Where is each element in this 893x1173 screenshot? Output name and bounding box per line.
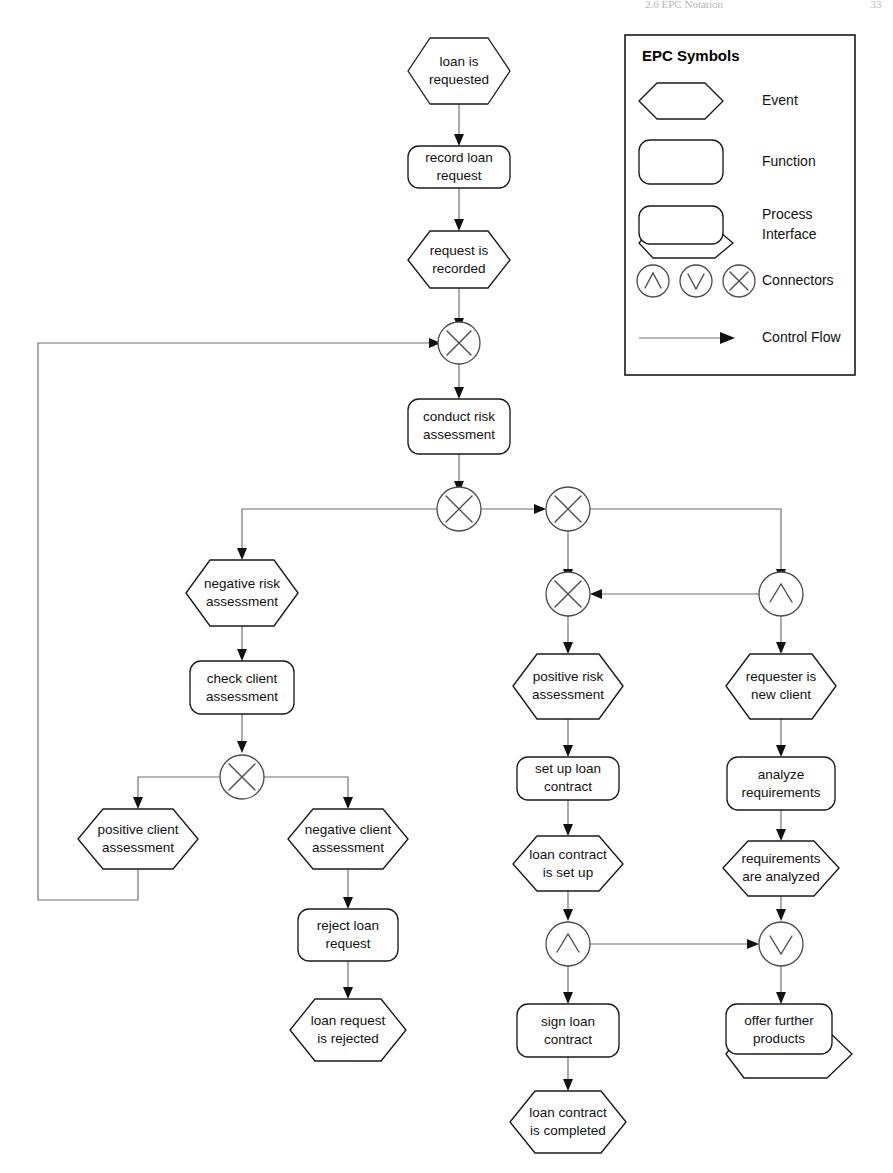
function-rect-shape [517, 1004, 619, 1057]
flow-c6-e5 [264, 777, 348, 800]
arrowhead-f4 [343, 897, 353, 909]
arrowhead-e3 [237, 548, 247, 560]
connector-xor-split-risk[interactable] [437, 487, 481, 531]
function-reject-loan-request[interactable]: reject loan request [298, 909, 398, 961]
arrowhead-c6-top [237, 741, 247, 753]
node-label-line2: is rejected [317, 1031, 379, 1046]
event-hexagon-icon [639, 83, 723, 119]
connector-and-split-new-client[interactable] [759, 572, 803, 616]
legend-label-process-interface-line2: Interface [762, 226, 817, 242]
arrowhead-e5 [343, 797, 353, 809]
node-label-line1: set up loan [535, 761, 601, 776]
node-label-line1: negative client [305, 822, 392, 837]
function-rect-icon [639, 140, 723, 184]
arrowhead-f3 [237, 649, 247, 661]
event-request-is-recorded[interactable]: request is recorded [408, 231, 510, 288]
page-header: 2.6 EPC Notation 33 [645, 0, 882, 10]
legend-label-event: Event [762, 92, 798, 108]
arrowhead-e6 [343, 987, 353, 999]
legend-panel: EPC Symbols Event Function Process Inter… [625, 35, 855, 375]
legend-label-control-flow: Control Flow [762, 329, 841, 345]
node-label-line2: products [753, 1031, 805, 1046]
event-loan-is-requested[interactable]: loan is requested [408, 38, 510, 104]
arrowhead-f2 [454, 387, 464, 399]
page-number: 33 [871, 0, 883, 10]
node-label-line1: loan is [439, 54, 478, 69]
event-hexagon-shape [513, 836, 623, 891]
legend-title: EPC Symbols [642, 47, 740, 64]
flow-c2-e3 [242, 509, 437, 551]
node-label-line2: assessment [312, 840, 384, 855]
arrowhead-c8-left [747, 939, 759, 949]
node-label-line2: requirements [742, 785, 821, 800]
connector-circle-shape [759, 922, 803, 966]
function-record-loan-request[interactable]: record loan request [408, 146, 510, 188]
arrowhead-e9 [563, 1079, 573, 1091]
event-loan-request-is-rejected[interactable]: loan request is rejected [290, 999, 406, 1061]
connector-circle-shape [546, 922, 590, 966]
node-label-line2: assessment [206, 594, 278, 609]
arrowhead-c4-right [590, 589, 602, 599]
function-conduct-risk-assessment[interactable]: conduct risk assessment [408, 399, 510, 454]
node-label-line2: is set up [543, 865, 593, 880]
event-positive-risk-assessment[interactable]: positive risk assessment [513, 654, 623, 719]
connector-circle-icon-and [637, 265, 669, 297]
arrowhead-e7 [563, 642, 573, 654]
node-label-line1: analyze [758, 767, 805, 782]
connector-xor-split-client-assessment[interactable] [220, 755, 264, 799]
node-label-line1: check client [207, 671, 278, 686]
arrowhead-f6 [563, 992, 573, 1004]
legend-label-process-interface-line1: Process [762, 206, 813, 222]
node-label-line2: request [325, 936, 370, 951]
connector-xor-join-rework[interactable] [438, 322, 480, 364]
epc-diagram-canvas: 2.6 EPC Notation 33 [0, 0, 893, 1173]
event-loan-contract-is-set-up[interactable]: loan contract is set up [513, 836, 623, 891]
function-rect-shape [190, 661, 294, 714]
function-analyze-requirements[interactable]: analyze requirements [727, 757, 835, 810]
arrowhead-f7 [776, 745, 786, 757]
arrowhead-c7-top [563, 909, 573, 921]
connector-xor-split-client-check[interactable] [546, 487, 590, 531]
event-loan-contract-is-completed[interactable]: loan contract is completed [510, 1091, 626, 1153]
event-negative-client-assessment[interactable]: negative client assessment [288, 809, 408, 869]
function-check-client-assessment[interactable]: check client assessment [190, 661, 294, 714]
node-label-line1: reject loan [317, 918, 379, 933]
event-hexagon-shape [408, 231, 510, 288]
function-sign-loan-contract[interactable]: sign loan contract [517, 1004, 619, 1057]
arrowhead-f5 [563, 745, 573, 757]
node-label-line1: negative risk [204, 576, 280, 591]
arrowhead-p1 [776, 992, 786, 1004]
arrowhead-c3-left [534, 504, 546, 514]
node-label-line1: record loan [425, 150, 493, 165]
process-interface-offer-further-products[interactable]: offer further products [726, 1004, 852, 1078]
connector-and-split-sign-contract[interactable] [546, 922, 590, 966]
function-set-up-loan-contract[interactable]: set up loan contract [517, 757, 619, 800]
node-label-line1: conduct risk [423, 409, 495, 424]
node-label-line2: recorded [432, 261, 485, 276]
event-requirements-are-analyzed[interactable]: requirements are analyzed [723, 841, 839, 896]
flow-c3-c5 [590, 509, 781, 572]
connector-or-join-offer-products[interactable] [759, 922, 803, 966]
node-label-line2: contract [544, 779, 592, 794]
connector-xor-join-positive-risk[interactable] [546, 572, 590, 616]
process-interface-front-rect [726, 1004, 832, 1054]
node-label-line1: request is [430, 243, 489, 258]
legend-label-function: Function [762, 153, 816, 169]
page-header-title: 2.6 EPC Notation [645, 0, 723, 10]
node-label-line2: requested [429, 72, 489, 87]
node-label-line1: positive risk [533, 669, 604, 684]
arrowhead-e2 [454, 219, 464, 231]
event-negative-risk-assessment[interactable]: negative risk assessment [186, 560, 298, 626]
node-label-line2: assessment [532, 687, 604, 702]
event-requester-is-new-client[interactable]: requester is new client [726, 654, 836, 719]
event-positive-client-assessment[interactable]: positive client assessment [78, 809, 198, 869]
node-label-line1: requester is [746, 669, 817, 684]
node-label-line1: requirements [742, 851, 821, 866]
arrowhead-c8-top [776, 909, 786, 921]
epc-diagram-svg: 2.6 EPC Notation 33 [0, 0, 893, 1173]
node-label-line1: offer further [744, 1013, 814, 1028]
node-label-line1: positive client [97, 822, 178, 837]
flow-c6-e4 [138, 777, 220, 800]
legend-label-connectors: Connectors [762, 272, 834, 288]
node-label-line2: assessment [102, 840, 174, 855]
